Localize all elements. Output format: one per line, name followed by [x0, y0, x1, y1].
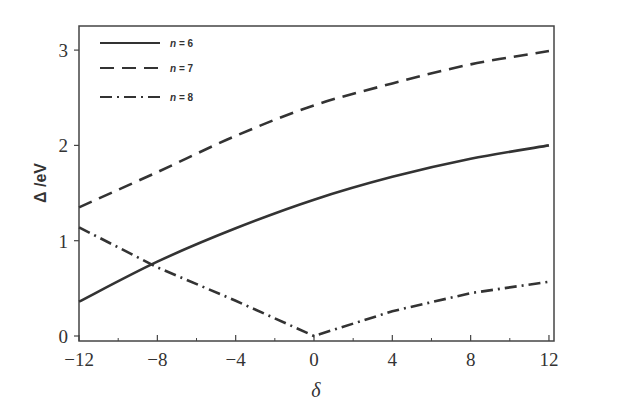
legend-label-n8: n = 8 [170, 92, 194, 103]
plot-frame [79, 26, 554, 341]
y-tick-label: 2 [59, 135, 69, 156]
x-tick-label: 0 [309, 349, 319, 370]
x-tick-label: 4 [388, 349, 398, 370]
legend: n = 6 n = 7 n = 8 [100, 38, 194, 103]
x-axis-label: δ [311, 379, 321, 401]
data-series [79, 51, 549, 336]
y-tick-label: 0 [59, 326, 69, 347]
legend-label-n6: n = 6 [170, 38, 194, 49]
series-line [79, 145, 549, 301]
x-tick-label: −4 [226, 349, 247, 370]
x-tick-label: 12 [539, 349, 558, 370]
series-line [79, 51, 549, 207]
x-tick-label: 8 [466, 349, 476, 370]
y-tick-label: 1 [59, 231, 69, 252]
x-tick-label: −12 [64, 349, 94, 370]
y-axis-label: Δ /eV [32, 163, 49, 203]
legend-label-n7: n = 7 [170, 63, 194, 74]
chart: −12−8−404812 0123 n = 6 n = 7 n = 8 Δ /e… [0, 0, 618, 415]
y-axis-ticks: 0123 [59, 40, 80, 347]
y-tick-label: 3 [59, 40, 69, 61]
x-tick-label: −8 [147, 349, 167, 370]
series-line [79, 227, 549, 336]
